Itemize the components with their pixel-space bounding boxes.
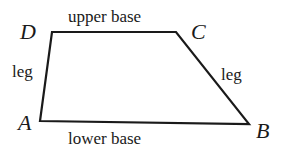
edge-label-left-leg: leg — [12, 63, 33, 80]
vertex-label-b: B — [256, 120, 269, 142]
vertex-label-d: D — [20, 21, 36, 43]
edge-label-lower-base: lower base — [68, 130, 141, 147]
vertex-label-c: C — [191, 21, 206, 43]
trapezoid-diagram: D C A B upper base lower base leg leg — [0, 0, 282, 155]
trapezoid-outline — [40, 32, 249, 124]
edge-label-upper-base: upper base — [68, 8, 141, 25]
edge-label-right-leg: leg — [221, 66, 242, 83]
vertex-label-a: A — [18, 112, 31, 134]
